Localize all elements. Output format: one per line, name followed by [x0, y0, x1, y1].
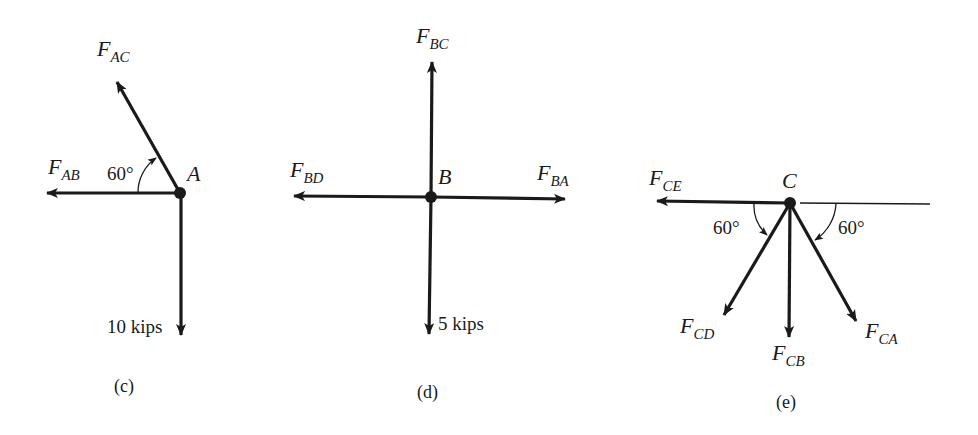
- label-fce: FCE: [648, 165, 682, 194]
- label-fba: FBA: [536, 160, 570, 189]
- caption-c: (c): [114, 376, 134, 397]
- load-arrow-5kips: [429, 197, 431, 334]
- joint-a: [174, 187, 186, 199]
- joint-b: [425, 191, 437, 203]
- panel-c: FAC FAB 60° A 10 kips (c): [47, 36, 201, 397]
- panel-d: FBC FBD FBA B 5 kips (d): [289, 23, 570, 403]
- label-fcd: FCD: [679, 313, 714, 342]
- angle-label-right-60: 60°: [838, 217, 865, 238]
- angle-arc-60: [138, 158, 156, 193]
- load-label-10kips: 10 kips: [107, 316, 162, 337]
- caption-d: (d): [417, 382, 438, 403]
- node-label-a: A: [185, 161, 201, 186]
- free-body-diagrams: FAC FAB 60° A 10 kips (c) FBC FBD FBA B …: [0, 0, 978, 435]
- label-fcb: FCB: [771, 340, 805, 369]
- panel-e: FCE C 60° 60° FCD FCB FCA (e): [648, 165, 930, 413]
- angle-arc-left-60: [754, 203, 767, 235]
- angle-label-60: 60°: [107, 163, 134, 184]
- joint-c: [784, 197, 796, 209]
- label-fab: FAB: [47, 154, 80, 183]
- angle-arc-right-60: [815, 204, 836, 240]
- label-fbc: FBC: [415, 23, 450, 52]
- reference-line-horizontal: [800, 203, 930, 204]
- force-arrow-fbc: [431, 62, 432, 197]
- label-fbd: FBD: [289, 157, 324, 186]
- label-fac: FAC: [96, 36, 131, 65]
- caption-e: (e): [776, 392, 796, 413]
- node-label-c: C: [782, 168, 797, 193]
- node-label-b: B: [438, 164, 451, 189]
- load-label-5kips: 5 kips: [438, 313, 484, 334]
- force-arrow-fbd: [294, 196, 431, 197]
- force-arrow-fba: [431, 197, 565, 199]
- force-arrow-fce: [657, 201, 790, 203]
- angle-label-left-60: 60°: [713, 217, 740, 238]
- label-fca: FCA: [864, 318, 898, 347]
- force-arrow-fcb: [789, 203, 790, 337]
